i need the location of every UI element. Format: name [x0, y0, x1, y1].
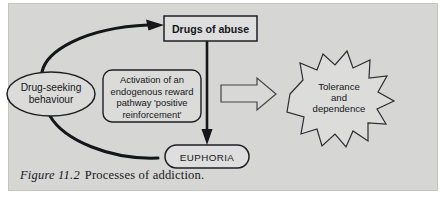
figure-caption-label: Figure 11.2 — [20, 168, 80, 182]
node-euphoria[interactable]: EUPHORIA — [165, 145, 249, 168]
tolerance-label-line3: dependence — [313, 103, 366, 114]
connector-drugs-to-euphoria — [202, 41, 213, 145]
figure-caption: Figure 11.2Processes of addiction. — [20, 168, 204, 183]
drug-seeking-label-line1: Drug-seeking — [21, 82, 82, 93]
activation-label-line4: reinforcement' — [122, 109, 181, 120]
activation-label-line3: pathway 'positive — [116, 97, 187, 108]
tolerance-label-line2: and — [331, 92, 347, 103]
connector-seeking-to-drugs — [42, 20, 164, 73]
node-drug-seeking-behaviour[interactable]: Drug-seeking behaviour — [7, 72, 95, 116]
figure-caption-text: Processes of addiction. — [85, 168, 205, 182]
figure-container: Drug-seeking behaviour Drugs of abuse Ac… — [0, 0, 447, 204]
activation-label-line1: Activation of an — [120, 74, 184, 85]
drugs-of-abuse-label: Drugs of abuse — [172, 23, 249, 35]
node-activation-reward-pathway[interactable]: Activation of an endogenous reward pathw… — [103, 70, 201, 122]
tolerance-label-line1: Tolerance — [318, 81, 360, 92]
activation-label-line2: endogenous reward — [111, 86, 194, 97]
node-tolerance-and-dependence[interactable]: Tolerance and dependence — [287, 51, 394, 147]
drug-seeking-label-line2: behaviour — [29, 94, 74, 105]
node-drugs-of-abuse[interactable]: Drugs of abuse — [164, 16, 257, 41]
connector-block-arrow-to-tolerance — [221, 78, 276, 110]
euphoria-label: EUPHORIA — [180, 152, 234, 163]
